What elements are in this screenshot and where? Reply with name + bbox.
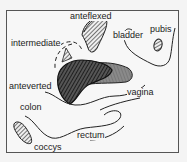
rectum-outline [25,111,121,139]
coccyx-bone [14,122,32,144]
pubis-bone [153,38,164,52]
label-rectum: rectum [77,131,105,140]
label-coccyx: coccys [34,143,62,152]
label-anteflexed: anteflexed [70,12,112,21]
anteflexed-uterus [82,17,107,52]
label-vagina: vagina [127,88,154,97]
label-pubis: pubis [150,25,172,34]
label-bladder: bladder [113,31,143,40]
label-intermediate: intermediate [11,39,61,48]
label-anteverted: anteverted [9,82,52,91]
label-colon: colon [20,103,42,112]
